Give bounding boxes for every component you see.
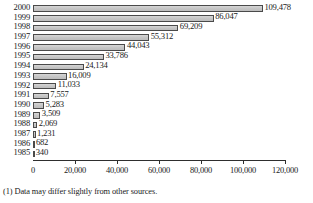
x-axis-tick-label: 20,000 [64, 166, 86, 175]
x-axis-tick-label: 80,000 [190, 166, 212, 175]
x-axis-tick-label: 100,000 [230, 166, 256, 175]
x-axis-tick-label: 120,000 [272, 166, 298, 175]
y-axis-tick-label: 1985 [0, 148, 30, 158]
bar-row: 199986,047 [0, 14, 313, 24]
bar-value-label: 86,047 [214, 12, 238, 22]
x-axis-tick-label: 40,000 [106, 166, 128, 175]
bar-value-label: 109,478 [263, 3, 291, 13]
bar-value-label: 340 [34, 148, 48, 158]
bar-chart-figure: 2000109,478199986,047199869,209199755,31… [0, 0, 313, 203]
bar-value-label: 44,043 [125, 41, 149, 51]
plot-area: 2000109,478199986,047199869,209199755,31… [0, 4, 313, 160]
bar-value-label: 69,209 [178, 22, 202, 32]
x-axis-tick-label: 0 [31, 166, 35, 175]
x-axis-tick [243, 160, 244, 164]
chart-title [0, 0, 313, 1]
x-axis-tick-label: 60,000 [148, 166, 170, 175]
x-axis-tick [117, 160, 118, 164]
bar-row: 1985340 [0, 149, 313, 159]
x-axis-tick [285, 160, 286, 164]
bar-row: 199424,134 [0, 62, 313, 72]
bar-value-label: 55,312 [149, 32, 173, 42]
x-axis-tick [159, 160, 160, 164]
chart-footnote: (1) Data may differ slightly from other … [3, 187, 157, 196]
bar-row: 2000109,478 [0, 4, 313, 14]
bar-row: 199644,043 [0, 43, 313, 53]
bar-row: 199533,786 [0, 52, 313, 62]
x-axis-tick [75, 160, 76, 164]
x-axis-tick [201, 160, 202, 164]
bar-row: 199755,312 [0, 33, 313, 43]
bar-row: 199211,033 [0, 82, 313, 92]
bar-row: 199316,009 [0, 72, 313, 82]
